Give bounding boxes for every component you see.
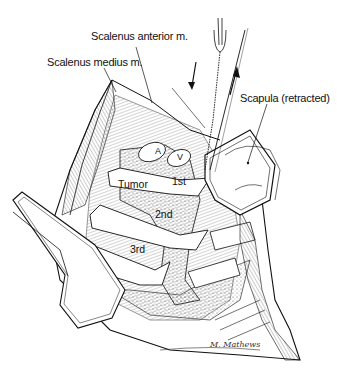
label-rib-3: 3rd <box>130 243 145 255</box>
label-scalenus-medius: Scalenus medius m. <box>47 56 142 68</box>
label-artery: A <box>155 146 161 156</box>
illustration: Scalenus anterior m. Scalenus medius m. … <box>0 0 337 376</box>
label-rib-1: 1st <box>172 175 186 187</box>
label-scalenus-anterior: Scalenus anterior m. <box>91 30 188 42</box>
label-scapula: Scapula (retracted) <box>240 92 330 104</box>
artist-signature: M. Mathews <box>210 340 260 349</box>
label-tumor: Tumor <box>118 178 148 190</box>
label-rib-2: 2nd <box>155 208 173 220</box>
label-vein: V <box>177 152 183 162</box>
